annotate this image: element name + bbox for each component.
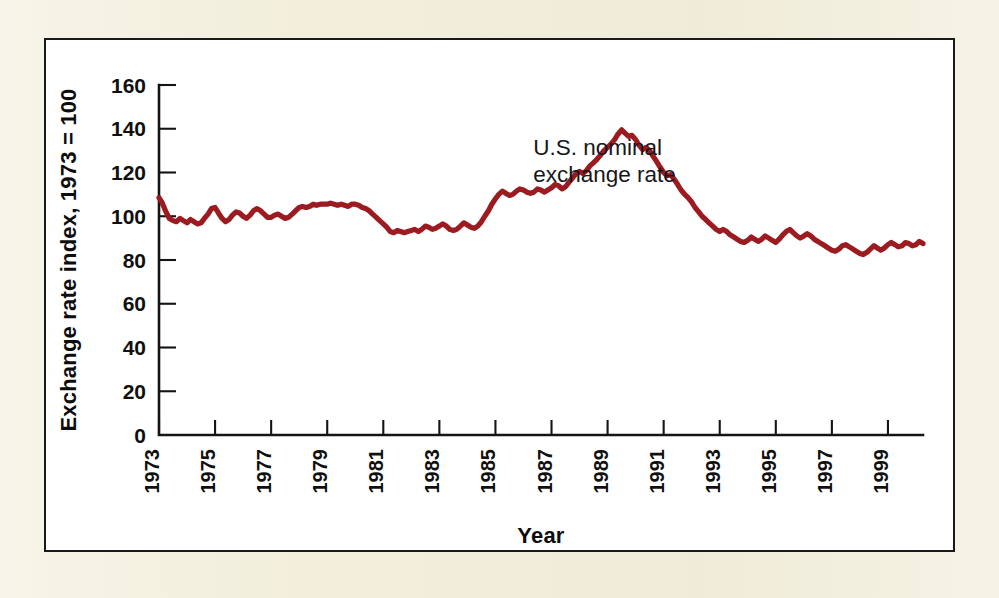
x-axis-tick-label: 1993 — [702, 449, 724, 494]
y-axis-tick-label: 120 — [111, 161, 146, 184]
figure-root: 0204060801001201401601973197519771979198… — [0, 0, 999, 598]
y-axis-tick-label: 0 — [134, 424, 146, 447]
x-axis-tick-label: 1987 — [534, 449, 556, 494]
x-axis-tick-label: 1983 — [421, 449, 443, 494]
y-axis-title: Exchange rate index, 1973 = 100 — [56, 88, 81, 431]
x-axis-tick-label: 1997 — [814, 449, 836, 494]
series-annotation-line-1: U.S. nominal — [533, 135, 662, 160]
x-axis-tick-label: 1989 — [590, 449, 612, 494]
x-axis-tick-label: 1981 — [365, 449, 387, 494]
y-axis-tick-label: 40 — [123, 336, 146, 359]
x-axis-tick-label: 1973 — [141, 449, 163, 494]
y-axis-tick-label: 100 — [111, 205, 146, 228]
x-axis-title: Year — [517, 523, 565, 548]
x-axis-tick-label: 1999 — [870, 449, 892, 494]
y-axis-tick-label: 60 — [123, 292, 146, 315]
x-axis-tick-label: 1995 — [758, 449, 780, 494]
y-axis-tick-label: 160 — [111, 74, 146, 97]
y-axis-tick-label: 80 — [123, 249, 146, 272]
chart-panel: 0204060801001201401601973197519771979198… — [44, 38, 955, 552]
y-axis-tick-label: 140 — [111, 117, 146, 140]
x-axis-tick-label: 1991 — [646, 449, 668, 494]
series-annotation-line-2: exchange rate — [533, 162, 676, 187]
exchange-rate-line-chart: 0204060801001201401601973197519771979198… — [46, 40, 953, 550]
x-axis-tick-label: 1977 — [253, 449, 275, 494]
y-axis-tick-label: 20 — [123, 380, 146, 403]
x-axis-tick-label: 1985 — [477, 449, 499, 494]
x-axis-tick-label: 1975 — [197, 449, 219, 494]
x-axis-tick-label: 1979 — [309, 449, 331, 494]
